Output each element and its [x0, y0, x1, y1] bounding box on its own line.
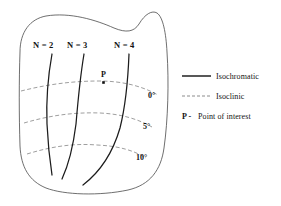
fringe-label-n2: N = 2 [33, 40, 53, 50]
isoclinic-label-5deg: 5° [143, 122, 150, 131]
isoclinic-curve-5deg [24, 113, 152, 127]
isochromatic-curve-n3 [62, 54, 84, 179]
photoelasticity-fringe-diagram: N = 2 N = 3 N = 4 P 0° 5° 10° Isochromat… [0, 0, 281, 206]
fringe-label-n3: N = 3 [67, 40, 87, 50]
legend-note-label: Point of interest [198, 112, 251, 121]
isoclinic-curve-0deg [21, 81, 158, 95]
legend-note-symbol: P - [182, 112, 191, 121]
isoclinic-label-0deg: 0° [148, 91, 155, 100]
point-of-interest-marker [102, 81, 105, 84]
isoclinic-curve-10deg [27, 144, 146, 158]
fringe-label-n4: N = 4 [114, 40, 135, 50]
legend-label-isochromatic: Isochromatic [216, 72, 259, 81]
isochromatic-curve-n4 [83, 54, 129, 185]
legend: Isochromatic Isoclinic P - Point of inte… [182, 72, 259, 121]
isoclinic-label-10deg: 10° [136, 153, 147, 162]
point-of-interest-label: P [101, 70, 106, 79]
legend-label-isoclinic: Isoclinic [216, 92, 245, 101]
isochromatic-curve-n2 [47, 54, 52, 175]
diagram-canvas: N = 2 N = 3 N = 4 P 0° 5° 10° Isochromat… [0, 0, 281, 206]
